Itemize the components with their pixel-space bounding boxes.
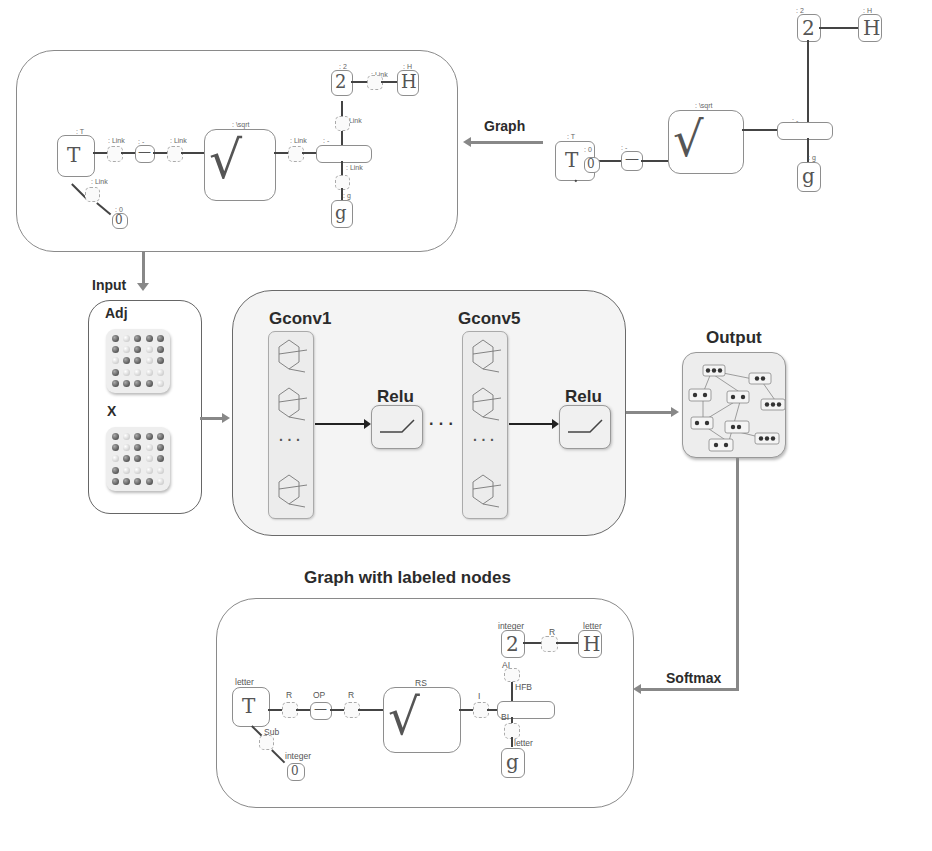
raw-node-g: g <box>797 162 821 192</box>
raw-node-sqrt: √ <box>668 110 744 174</box>
adj-matrix <box>106 329 170 393</box>
input-edge-node <box>85 187 100 202</box>
gconv1-to-relu-arrow <box>315 423 365 425</box>
labeled-edge <box>459 709 473 711</box>
graph-arrow <box>470 141 543 144</box>
labeled-edge <box>487 709 497 711</box>
x-matrix <box>106 427 170 491</box>
output-down-connector <box>736 458 739 690</box>
labeled-node-sqrt: √ <box>383 687 461 753</box>
raw-node-H: H <box>858 14 882 42</box>
input-arrow <box>142 252 145 284</box>
input-edge <box>341 101 343 116</box>
raw-edge <box>819 27 858 29</box>
labeled-edge <box>296 709 310 711</box>
relu2-label: Relu <box>565 387 602 407</box>
input-edge <box>97 202 112 215</box>
input-edge <box>341 161 343 175</box>
input-edge-node <box>335 116 350 131</box>
input-node-frac <box>316 145 372 163</box>
labeled-node-H: H <box>578 630 602 658</box>
labeled-edge <box>511 679 513 701</box>
input-edge-node <box>107 146 123 162</box>
raw-node-zero: 0 <box>584 157 600 173</box>
softmax-label: Softmax <box>666 670 721 686</box>
input-node-T: T <box>57 135 95 177</box>
raw-node-frac <box>777 122 833 140</box>
input-node-two: 2 <box>331 70 353 96</box>
x-label: X <box>107 403 116 419</box>
input-edge <box>302 152 316 154</box>
graph-arrow-label: Graph <box>484 118 525 134</box>
input-to-gcn-arrow <box>200 417 223 420</box>
output-box <box>682 352 786 458</box>
graph-icon <box>463 332 507 518</box>
relu1-box <box>371 405 423 449</box>
input-edge <box>153 152 167 154</box>
labeled-node-two: 2 <box>501 630 525 658</box>
input-node-zero: 0 <box>112 213 128 229</box>
labeled-edge <box>511 737 513 747</box>
labeled-node-T: T <box>232 687 270 727</box>
relu1-label: Relu <box>377 387 414 407</box>
relu-icon <box>560 406 610 448</box>
gconv5-column: · · · <box>462 331 508 519</box>
labeled-node-g: g <box>501 748 525 778</box>
gconv1-column: · · · <box>268 331 314 519</box>
gconv1-label: Gconv1 <box>269 309 331 329</box>
input-node-minus: — <box>135 145 155 163</box>
labeled-edge <box>330 709 344 711</box>
input-edge-node <box>367 75 383 90</box>
labeled-graph-panel: letter T R OP — R RS √ I HFB AI integer … <box>216 598 634 808</box>
graph-icon <box>269 332 313 518</box>
raw-node-label-T: : T <box>567 133 575 140</box>
labeled-edge-node <box>541 636 558 652</box>
gcn-to-output-arrow <box>626 411 672 414</box>
gconv5-to-relu-arrow <box>509 423 553 425</box>
input-panel: Adj X <box>88 300 202 514</box>
input-node-H: H <box>397 70 419 96</box>
labeled-edge-node <box>504 668 520 682</box>
labeled-node-minus: — <box>310 702 332 720</box>
input-edge-node <box>288 146 304 162</box>
input-edge <box>181 152 204 154</box>
input-label: Input <box>92 277 126 293</box>
adj-label: Adj <box>105 305 128 321</box>
raw-node-label-zero: : 0 <box>584 146 592 153</box>
labeled-edge <box>358 709 383 711</box>
raw-edge <box>742 129 777 131</box>
softmax-arrow <box>640 688 739 691</box>
labeled-edge-node <box>259 735 274 750</box>
labeled-edge <box>556 642 578 644</box>
input-node-g: g <box>331 200 353 228</box>
input-edge <box>121 152 135 154</box>
labeled-edge <box>271 749 285 763</box>
gconv5-label: Gconv5 <box>458 309 520 329</box>
raw-node-minus: — <box>621 151 643 171</box>
raw-edge <box>807 40 809 98</box>
labeled-graph-icon <box>683 353 785 457</box>
layers-ellipsis: · · · <box>429 415 454 433</box>
relu2-box <box>559 405 611 449</box>
input-edge <box>351 81 367 83</box>
raw-node-two: 2 <box>797 14 821 42</box>
input-edge <box>341 129 343 145</box>
gcn-panel: Gconv1 · · · Relu · · · Gconv5 · · · Rel… <box>232 290 626 536</box>
input-edge <box>274 152 288 154</box>
input-edge-node <box>167 146 183 162</box>
raw-edge <box>807 98 809 122</box>
input-arrow-head <box>137 283 149 291</box>
labeled-graph-title: Graph with labeled nodes <box>304 568 511 588</box>
labeled-edge <box>523 642 541 644</box>
input-edge <box>93 152 107 154</box>
input-graph-panel: : T T : Link : - — : Link : \sqrt √ : Li… <box>16 50 458 252</box>
labeled-edge <box>268 709 282 711</box>
raw-edge <box>641 160 668 162</box>
raw-edge <box>575 180 577 182</box>
input-node-sqrt: √ <box>204 129 276 201</box>
relu-icon <box>372 406 422 448</box>
input-edge <box>381 81 397 83</box>
labeled-node-zero: 0 <box>287 763 305 781</box>
output-label: Output <box>706 328 762 348</box>
input-edge-node <box>335 175 350 190</box>
